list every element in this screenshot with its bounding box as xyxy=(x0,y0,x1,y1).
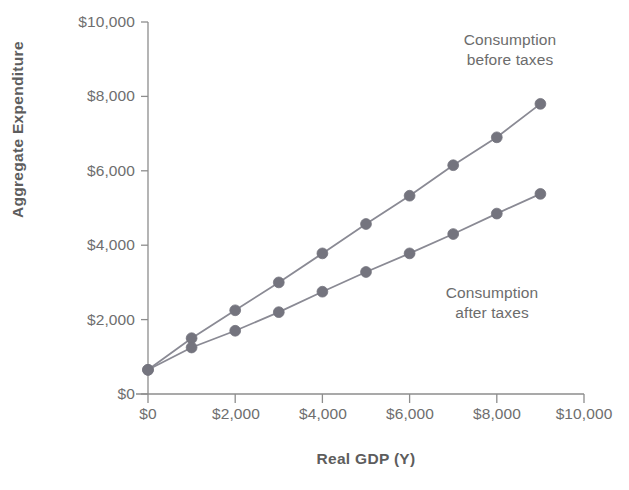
y-tick-label-0: $0 xyxy=(20,385,135,403)
series-line-1 xyxy=(148,194,540,370)
data-point xyxy=(361,219,372,230)
y-axis-title-text: Aggregate Expenditure xyxy=(9,41,27,218)
chart-figure: $10,000 $8,000 $6,000 $4,000 $2,000 $0 $… xyxy=(0,0,629,490)
data-point xyxy=(230,305,241,316)
y-tick-label-8000: $8,000 xyxy=(20,87,135,105)
data-point xyxy=(317,248,328,259)
data-point xyxy=(535,188,546,199)
data-point xyxy=(361,267,372,278)
y-tick-label-6000: $6,000 xyxy=(20,162,135,180)
data-point xyxy=(404,190,415,201)
y-tick-label-10000: $10,000 xyxy=(20,13,135,31)
annotation-before-line2: before taxes xyxy=(464,50,556,70)
data-point xyxy=(273,277,284,288)
data-point xyxy=(404,248,415,259)
x-tick-label-10000: $10,000 xyxy=(556,405,613,423)
data-point xyxy=(491,132,502,143)
x-tick-label-4000: $4,000 xyxy=(299,405,347,423)
x-tick-label-2000: $2,000 xyxy=(212,405,260,423)
x-axis-title: Real GDP (Y) xyxy=(317,450,416,468)
data-point xyxy=(273,307,284,318)
x-tick-label-8000: $8,000 xyxy=(473,405,521,423)
data-point xyxy=(491,208,502,219)
data-point xyxy=(143,364,154,375)
annotation-before-line1: Consumption xyxy=(464,30,556,50)
data-point xyxy=(448,229,459,240)
annotation-consumption-before-taxes: Consumption before taxes xyxy=(464,30,556,70)
chart-series xyxy=(143,98,546,375)
chart-axes xyxy=(136,22,584,403)
data-point xyxy=(317,286,328,297)
y-tick-label-4000: $4,000 xyxy=(20,236,135,254)
series-line-0 xyxy=(148,104,540,370)
data-point xyxy=(535,98,546,109)
x-tick-label-6000: $6,000 xyxy=(386,405,434,423)
x-tick-label-0: $0 xyxy=(139,405,156,423)
y-tick-label-2000: $2,000 xyxy=(20,311,135,329)
annotation-consumption-after-taxes: Consumption after taxes xyxy=(446,283,538,323)
y-axis-title: Aggregate Expenditure xyxy=(9,198,27,218)
data-point xyxy=(230,325,241,336)
data-point xyxy=(448,160,459,171)
annotation-after-line1: Consumption xyxy=(446,283,538,303)
annotation-after-line2: after taxes xyxy=(446,303,538,323)
data-point xyxy=(186,342,197,353)
